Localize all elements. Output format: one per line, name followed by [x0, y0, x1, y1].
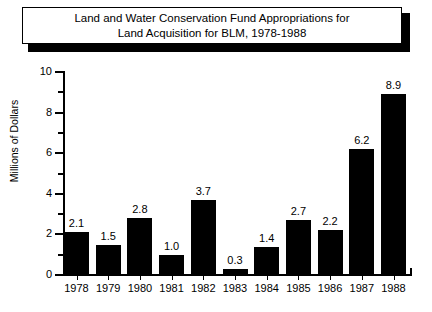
x-axis-tick	[235, 276, 236, 280]
x-axis-tick-label: 1982	[186, 282, 220, 294]
x-axis-tick	[77, 276, 78, 280]
bar	[381, 94, 406, 275]
bar-value-label: 1.4	[250, 233, 284, 244]
y-axis-tick-major	[55, 71, 63, 73]
y-axis-tick-major	[55, 112, 63, 114]
x-axis-tick-label: 1980	[123, 282, 157, 294]
x-axis-tick-label: 1981	[155, 282, 189, 294]
y-axis-tick-label: 2	[30, 228, 52, 239]
bar	[223, 269, 248, 275]
bar	[254, 247, 279, 275]
y-axis-tick-label: 4	[30, 188, 52, 199]
chart-title: Land and Water Conservation Fund Appropr…	[74, 11, 349, 41]
y-axis-title: Millions of Dollars	[8, 81, 20, 201]
x-axis-tick	[330, 276, 331, 280]
y-axis-tick-label: 0	[30, 269, 52, 280]
bar	[159, 255, 184, 275]
bar-value-label: 6.2	[345, 135, 379, 146]
y-axis-tick-major	[55, 274, 63, 276]
bar	[127, 218, 152, 275]
bar	[96, 245, 121, 275]
x-axis-tick-label: 1987	[345, 282, 379, 294]
bar-value-label: 2.8	[123, 204, 157, 215]
x-axis-tick	[140, 276, 141, 280]
bar	[318, 230, 343, 275]
title-box: Land and Water Conservation Fund Appropr…	[22, 7, 402, 44]
bar-value-label: 2.1	[60, 218, 94, 229]
bar-value-label: 1.0	[155, 241, 189, 252]
bar-value-label: 1.5	[91, 231, 125, 242]
y-axis-tick-label: 8	[30, 107, 52, 118]
x-axis-tick-label: 1986	[313, 282, 347, 294]
bar-value-label: 2.7	[281, 206, 315, 217]
x-axis-tick-label: 1984	[250, 282, 284, 294]
x-axis-tick	[362, 276, 363, 280]
x-axis-tick	[108, 276, 109, 280]
bar-value-label: 0.3	[218, 255, 252, 266]
bar-value-label: 3.7	[186, 186, 220, 197]
y-axis-tick-major	[55, 233, 63, 235]
x-axis-tick-label: 1985	[281, 282, 315, 294]
y-axis-tick-label: 10	[30, 66, 52, 77]
y-axis-tick-major	[55, 193, 63, 195]
x-axis-tick-label: 1983	[218, 282, 252, 294]
bar	[191, 200, 216, 275]
bar	[349, 149, 374, 275]
x-axis-tick-label: 1988	[377, 282, 411, 294]
x-axis-tick	[203, 276, 204, 280]
plot-area: 2.11.52.81.03.70.31.42.72.26.28.9	[63, 72, 412, 275]
bar-value-label: 8.9	[377, 80, 411, 91]
bar	[286, 220, 311, 275]
x-axis-tick	[267, 276, 268, 280]
chart-figure: Land and Water Conservation Fund Appropr…	[0, 0, 432, 312]
bar-value-label: 2.2	[313, 216, 347, 227]
y-axis-tick-label: 6	[30, 147, 52, 158]
x-axis-tick-label: 1978	[60, 282, 94, 294]
x-axis-tick-label: 1979	[91, 282, 125, 294]
y-axis-tick-major	[55, 152, 63, 154]
bar	[64, 232, 89, 275]
x-axis-tick	[298, 276, 299, 280]
x-axis-tick	[172, 276, 173, 280]
x-axis-tick	[394, 276, 395, 280]
